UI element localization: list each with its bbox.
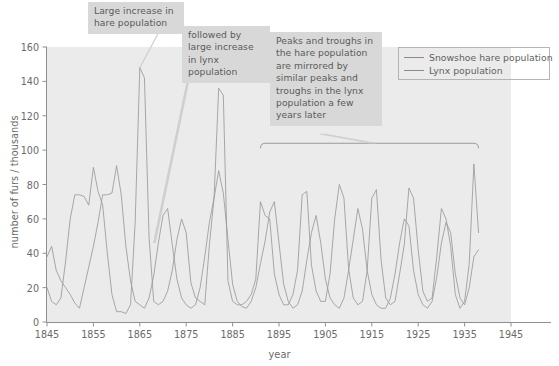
x-tick-1915: 1915	[360, 329, 384, 340]
y-tick-20: 20	[8, 282, 39, 293]
y-tick-40: 40	[8, 248, 39, 259]
annotation-hare-increase: Large increase in hare population	[88, 2, 184, 34]
x-tick-1865: 1865	[128, 329, 152, 340]
x-tick-1855: 1855	[81, 329, 105, 340]
chart-legend: Snowshoe hare population Lynx population	[398, 47, 550, 80]
x-tick-1895: 1895	[267, 329, 291, 340]
x-axis-title: year	[0, 349, 559, 360]
annotation-peaks-troughs: Peaks and troughs in the hare population…	[270, 32, 382, 126]
y-tick-160: 160	[8, 42, 39, 53]
x-tick-1875: 1875	[174, 329, 198, 340]
legend-item-hare: Snowshoe hare population	[402, 51, 549, 64]
x-tick-1945: 1945	[499, 329, 523, 340]
chart-figure: 1845185518651875188518951905191519251935…	[0, 0, 559, 366]
legend-label-lynx: Lynx population	[429, 65, 503, 76]
legend-swatch-lynx	[404, 70, 424, 71]
x-tick-1885: 1885	[220, 329, 244, 340]
legend-swatch-hare	[404, 57, 424, 58]
x-tick-1935: 1935	[452, 329, 476, 340]
x-tick-1905: 1905	[313, 329, 337, 340]
y-axis-title: number of furs / thousands	[9, 119, 20, 249]
x-tick-1925: 1925	[406, 329, 430, 340]
y-tick-140: 140	[8, 76, 39, 87]
legend-item-lynx: Lynx population	[402, 64, 549, 77]
x-tick-1845: 1845	[35, 329, 59, 340]
legend-label-hare: Snowshoe hare population	[429, 52, 553, 63]
y-tick-0: 0	[8, 317, 39, 328]
annotation-lynx-increase: followed by large increase in lynx popul…	[182, 26, 270, 83]
